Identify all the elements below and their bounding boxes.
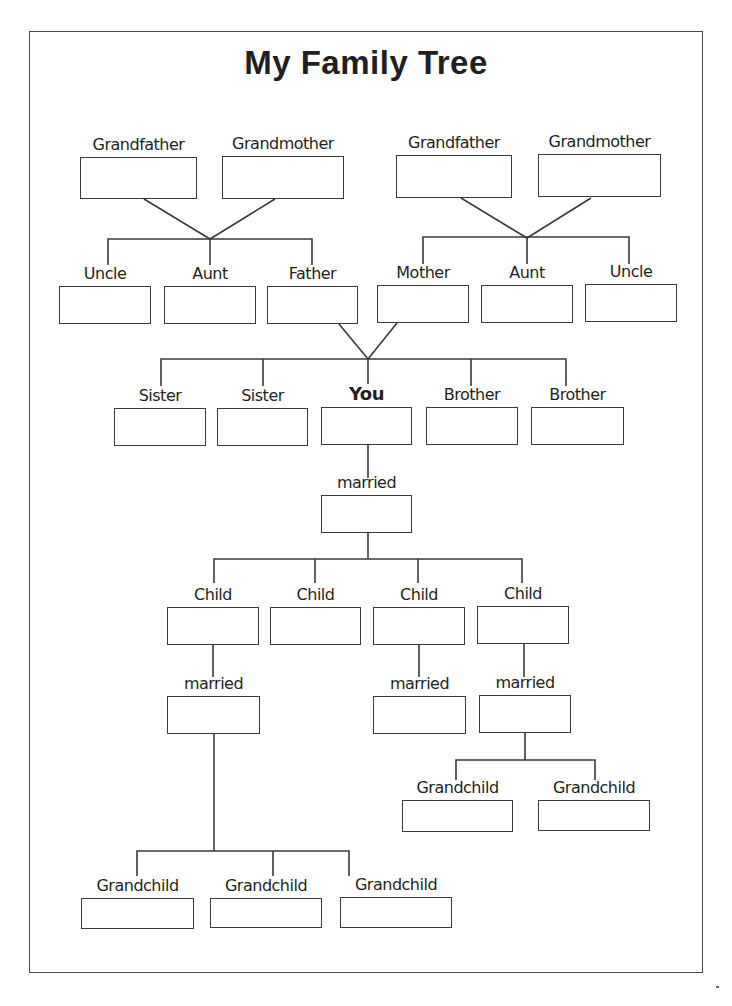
node-label-sister-2: Sister <box>241 386 284 405</box>
node-label-gf-paternal: Grandfather <box>93 135 185 154</box>
node-label-child-4: Child <box>504 584 542 603</box>
name-box-child-4[interactable] <box>477 606 569 644</box>
name-box-child-3-spouse[interactable] <box>373 696 466 734</box>
name-box-aunt-maternal[interactable] <box>481 285 573 323</box>
name-box-sister-2[interactable] <box>217 408 308 446</box>
node-label-child-2: Child <box>297 585 335 604</box>
node-label-sister-1: Sister <box>139 386 182 405</box>
connector-line <box>161 359 566 386</box>
connector-line <box>137 851 349 876</box>
name-box-gf-paternal[interactable] <box>80 157 197 199</box>
node-label-grandchild-1c: Grandchild <box>355 875 437 894</box>
connector-line <box>214 559 522 583</box>
name-box-aunt-paternal[interactable] <box>164 286 256 324</box>
node-label-child-3-spouse: married <box>390 674 449 693</box>
connector-line <box>339 323 397 359</box>
node-label-child-4-spouse: married <box>495 673 554 692</box>
name-box-mother[interactable] <box>377 285 469 323</box>
name-box-grandchild-4b[interactable] <box>538 800 650 831</box>
node-label-grandchild-1a: Grandchild <box>96 876 178 895</box>
connector-line <box>144 199 275 239</box>
name-box-grandchild-1b[interactable] <box>210 898 322 928</box>
name-box-gm-maternal[interactable] <box>538 154 661 197</box>
name-box-child-2[interactable] <box>270 607 361 645</box>
node-label-gm-paternal: Grandmother <box>232 134 334 153</box>
node-label-uncle-maternal: Uncle <box>610 262 652 281</box>
name-box-child-4-spouse[interactable] <box>479 695 571 733</box>
connector-line <box>461 198 591 238</box>
node-label-child-1-spouse: married <box>184 674 243 693</box>
name-box-grandchild-4a[interactable] <box>402 800 513 832</box>
node-label-grandchild-4b: Grandchild <box>553 778 635 797</box>
node-label-father: Father <box>289 264 336 283</box>
name-box-gf-maternal[interactable] <box>396 155 512 198</box>
connector-line <box>456 760 595 780</box>
node-label-gm-maternal: Grandmother <box>549 132 651 151</box>
name-box-uncle-paternal[interactable] <box>59 286 151 324</box>
scan-speck <box>716 986 719 988</box>
name-box-child-1[interactable] <box>167 607 259 645</box>
node-label-grandchild-4a: Grandchild <box>416 778 498 797</box>
connector-line <box>423 237 629 264</box>
name-box-gm-paternal[interactable] <box>222 156 344 199</box>
name-box-spouse[interactable] <box>321 495 412 533</box>
node-label-brother-1: Brother <box>444 385 500 404</box>
name-box-child-1-spouse[interactable] <box>167 696 260 734</box>
name-box-child-3[interactable] <box>373 607 465 645</box>
node-label-spouse: married <box>337 473 396 492</box>
node-label-aunt-paternal: Aunt <box>192 264 228 283</box>
node-label-you: You <box>349 383 384 404</box>
name-box-father[interactable] <box>267 286 358 324</box>
name-box-grandchild-1c[interactable] <box>340 897 452 928</box>
node-label-grandchild-1b: Grandchild <box>225 876 307 895</box>
name-box-brother-1[interactable] <box>426 407 518 445</box>
node-label-child-1: Child <box>194 585 232 604</box>
node-label-aunt-maternal: Aunt <box>509 263 545 282</box>
node-label-mother: Mother <box>396 263 449 282</box>
name-box-grandchild-1a[interactable] <box>81 898 194 929</box>
node-label-child-3: Child <box>400 585 438 604</box>
node-label-brother-2: Brother <box>549 385 605 404</box>
name-box-sister-1[interactable] <box>114 408 206 446</box>
node-label-uncle-paternal: Uncle <box>84 264 126 283</box>
node-label-gf-maternal: Grandfather <box>408 133 500 152</box>
name-box-you[interactable] <box>321 407 412 445</box>
name-box-uncle-maternal[interactable] <box>585 284 677 322</box>
name-box-brother-2[interactable] <box>531 407 624 445</box>
